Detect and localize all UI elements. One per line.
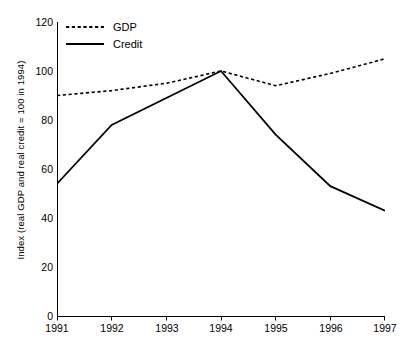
legend-solid-line-icon xyxy=(66,39,104,49)
x-tick-label: 1992 xyxy=(90,322,134,334)
legend-item-gdp: GDP xyxy=(66,18,196,35)
y-tick-label: 40 xyxy=(23,213,53,223)
x-tick-label: 1993 xyxy=(145,322,189,334)
x-axis-tick-labels: 1991 1992 1993 1994 1995 1996 1997 xyxy=(0,322,402,338)
y-tick-label: 20 xyxy=(23,262,53,272)
y-tick-label: 80 xyxy=(23,115,53,125)
x-tick-label: 1991 xyxy=(35,322,79,334)
series-line-gdp xyxy=(57,59,385,96)
y-tick-label: 120 xyxy=(23,17,53,27)
legend-item-credit: Credit xyxy=(66,35,196,52)
chart-container: Index (real GDP and real credit = 100 in… xyxy=(0,0,402,350)
plot-svg xyxy=(57,22,385,322)
x-tick-label: 1996 xyxy=(309,322,353,334)
x-tick-label: 1995 xyxy=(254,322,298,334)
y-tick-label: 0 xyxy=(23,311,53,321)
legend-label-credit: Credit xyxy=(104,38,142,50)
legend-dotted-line-icon xyxy=(66,22,104,32)
legend-label-gdp: GDP xyxy=(104,21,137,33)
chart-legend: GDP Credit xyxy=(66,18,196,52)
x-tick-label: 1994 xyxy=(199,322,243,334)
x-tick-label: 1997 xyxy=(363,322,402,334)
y-tick-label: 100 xyxy=(23,66,53,76)
plot-area xyxy=(57,22,385,316)
x-axis-ticks xyxy=(58,317,385,321)
y-tick-label: 60 xyxy=(23,164,53,174)
series-line-credit xyxy=(57,71,385,211)
y-axis-tick-labels: 120 100 80 60 40 20 0 xyxy=(19,0,53,350)
